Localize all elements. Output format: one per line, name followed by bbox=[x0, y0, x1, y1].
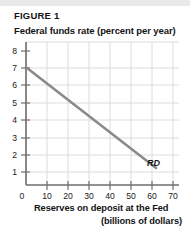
y-tick-label: 3 bbox=[12, 133, 17, 143]
y-tick-label: 8 bbox=[12, 46, 17, 56]
y-tick-label: 1 bbox=[12, 167, 17, 177]
y-tick-label: 4 bbox=[12, 115, 17, 125]
x-tick-label: 60 bbox=[147, 191, 157, 200]
y-tick-label: 2 bbox=[12, 150, 17, 160]
x-tick-label: 50 bbox=[126, 191, 136, 200]
x-tick-label: 70 bbox=[168, 191, 178, 200]
grid-lines-horizontal bbox=[26, 42, 179, 172]
x-tick-label: 30 bbox=[84, 191, 94, 200]
x-tick-label: 10 bbox=[42, 191, 52, 200]
x-axis-caption-line2: (billions of dollars) bbox=[0, 216, 182, 226]
y-tick-label: 7 bbox=[12, 63, 17, 73]
y-axis-tick-labels: 8 7 6 5 4 3 2 1 bbox=[12, 46, 17, 177]
reserve-demand-curve-label: RD bbox=[147, 158, 160, 168]
x-tick-label-origin: 0 bbox=[20, 191, 25, 200]
x-tick-label: 20 bbox=[63, 191, 73, 200]
x-axis-tick-labels: 0 10 20 30 40 50 60 70 bbox=[20, 191, 178, 200]
x-axis-caption-line1: Reserves on deposit at the Fed bbox=[34, 203, 168, 213]
y-tick-label: 6 bbox=[12, 80, 17, 90]
x-tick-label: 40 bbox=[105, 191, 115, 200]
chart-plot-area: 8 7 6 5 4 3 2 1 0 10 20 30 40 50 60 70 R… bbox=[0, 0, 190, 200]
figure-panel: FIGURE 1 Federal funds rate (percent per… bbox=[0, 0, 190, 236]
reserve-demand-curve bbox=[27, 68, 156, 168]
y-tick-label: 5 bbox=[12, 98, 17, 108]
